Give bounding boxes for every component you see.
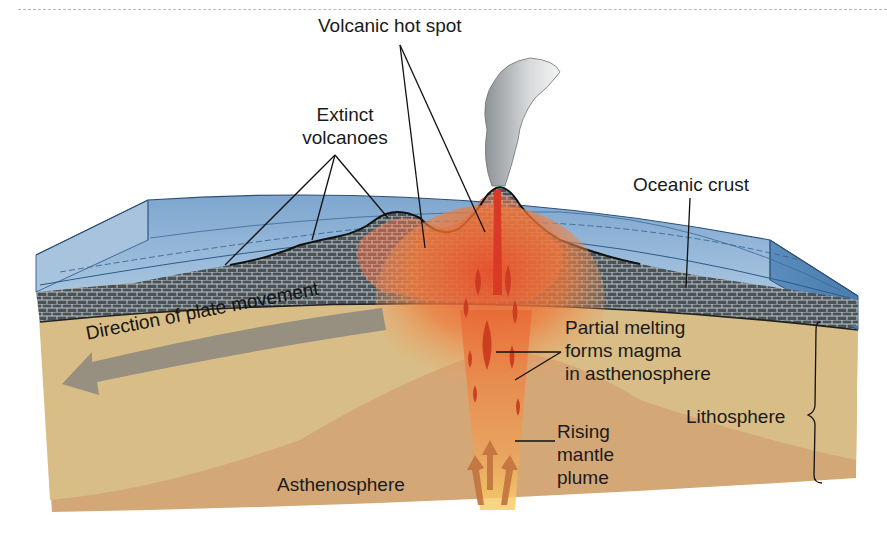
label-partial-melting-line2: forms magma — [565, 339, 711, 362]
label-lithosphere: Lithosphere — [686, 405, 785, 428]
label-rising-plume-line1: Rising — [557, 420, 614, 443]
label-volcanic-hot-spot: Volcanic hot spot — [318, 14, 462, 37]
label-asthenosphere: Asthenosphere — [277, 473, 405, 496]
label-partial-melting-line1: Partial melting — [565, 316, 711, 339]
label-rising-mantle-plume: Rising mantle plume — [557, 420, 614, 489]
label-extinct-volcanoes-line1: Extinct — [285, 103, 405, 126]
label-oceanic-crust: Oceanic crust — [633, 173, 749, 196]
label-partial-melting: Partial melting forms magma in asthenosp… — [565, 316, 711, 385]
label-extinct-volcanoes-line2: volcanoes — [285, 126, 405, 149]
label-rising-plume-line2: mantle — [557, 443, 614, 466]
label-partial-melting-line3: in asthenosphere — [565, 362, 711, 385]
volcano-smoke-plume — [485, 58, 560, 186]
magma-conduit — [493, 190, 502, 295]
label-rising-plume-line3: plume — [557, 466, 614, 489]
label-extinct-volcanoes: Extinct volcanoes — [285, 103, 405, 149]
hot-spot-cross-section — [0, 0, 887, 545]
